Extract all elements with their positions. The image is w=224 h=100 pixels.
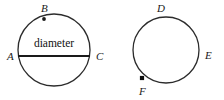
point-label-d: D xyxy=(156,2,165,14)
point-label-a: A xyxy=(6,50,14,62)
point-label-f: F xyxy=(138,85,146,97)
point-marker-b xyxy=(42,17,46,21)
right-circle-group: D E F xyxy=(133,2,212,97)
point-label-e: E xyxy=(204,49,212,61)
left-circle-outline xyxy=(18,14,90,86)
figure-canvas: diameter A B C D E F xyxy=(0,0,224,100)
point-label-b: B xyxy=(41,2,48,14)
point-marker-f xyxy=(140,76,144,80)
geometry-figure: diameter A B C D E F xyxy=(0,0,224,100)
point-label-c: C xyxy=(96,50,104,62)
diameter-label: diameter xyxy=(34,37,74,49)
left-circle-group: diameter A B C xyxy=(6,2,104,86)
right-circle-outline xyxy=(133,17,199,83)
